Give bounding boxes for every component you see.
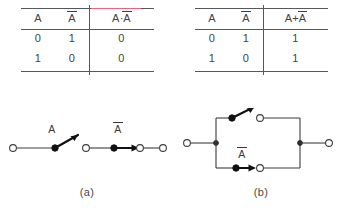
terminal-left [184,140,191,147]
panel-b: A A A+A 0 1 1 1 0 1 [174,0,348,210]
terminal-left [10,145,17,152]
expression-left-operand: A [112,12,120,24]
header-input-a: A [195,8,229,28]
cell-not-a: 1 [229,28,263,48]
terminal-right [160,145,167,152]
header-input-a: A [21,8,55,28]
cell-not-a: 0 [55,48,89,68]
expression-right-operand: A [299,12,307,24]
header-expression: A·A [89,8,154,28]
table-a-column-divider [89,5,90,75]
terminal-mid [83,145,90,152]
table-b-bottom-rule [195,71,328,72]
switch-nota-lever-tip [249,165,257,172]
table-a-top-rule-highlight [91,8,141,9]
table-b: A A A+A 0 1 1 1 0 1 [195,8,328,68]
expression-right-operand: A [123,12,131,24]
table-row-header: A A A+A [195,8,328,28]
switch-nota-label: A [238,148,245,160]
cell-a: 1 [195,48,229,68]
terminal-after-nota [137,145,144,152]
table-b-column-divider [263,5,264,75]
header-input-not-a: A [55,8,89,28]
cell-result: 0 [89,28,154,48]
cell-a: 0 [195,28,229,48]
table-row: 1 0 1 [195,48,328,68]
cell-not-a: 1 [55,28,89,48]
cell-a: 1 [21,48,55,68]
switch-nota-label: A [114,123,121,135]
circuit-a-svg: A [0,108,174,178]
circuit-b-svg: A A [174,108,348,178]
header-expression: A+A [263,8,328,28]
overbar-span: A [242,12,250,24]
cell-result: 0 [89,48,154,68]
table-row: 0 1 1 [195,28,328,48]
table-a-header-rule [21,29,154,30]
table-a: A A A·A 0 1 0 1 0 0 [21,8,154,68]
terminal-right [326,140,333,147]
panel-a: A A A·A 0 1 0 1 0 0 [0,0,174,210]
truth-table-b: A A A+A 0 1 1 1 0 1 [195,8,328,68]
cell-result: 1 [263,28,328,48]
cell-not-a: 0 [229,48,263,68]
cell-a: 0 [21,28,55,48]
table-row-header: A A A·A [21,8,154,28]
table-a-bottom-rule [21,71,154,72]
circuit-diagram-a: A [0,108,174,178]
caption-a: (a) [0,186,174,198]
switch-a-contact [257,115,264,122]
figure-root: A A A·A 0 1 0 1 0 0 [0,0,348,210]
truth-table-a: A A A·A 0 1 0 1 0 0 [21,8,154,68]
caption-b: (b) [174,186,348,198]
overbar-span: A [68,12,76,24]
header-input-not-a: A [229,8,263,28]
table-row: 1 0 0 [21,48,154,68]
table-b-top-rule [195,8,328,9]
table-row: 0 1 0 [21,28,154,48]
switch-a-label: A [48,123,55,135]
switch-nota-contact [257,165,264,172]
table-b-header-rule [195,29,328,30]
circuit-diagram-b: A A [174,108,348,178]
cell-result: 1 [263,48,328,68]
